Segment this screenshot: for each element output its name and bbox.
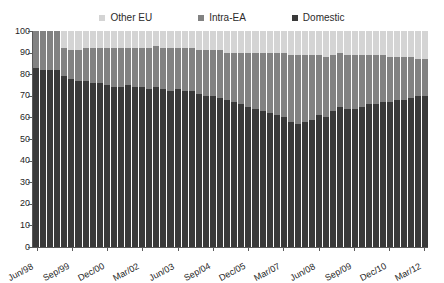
bar-column[interactable]	[111, 31, 118, 247]
y-axis-tick-label: 60	[0, 113, 30, 122]
bar-column[interactable]	[160, 31, 167, 247]
bar-segment-domestic	[359, 107, 365, 247]
bar-column[interactable]	[408, 31, 415, 247]
bar-column[interactable]	[387, 31, 394, 247]
bar-column[interactable]	[125, 31, 132, 247]
bar-segment-intra-ea	[189, 48, 195, 91]
bar-segment-other-eu	[217, 31, 223, 50]
bar-column[interactable]	[68, 31, 75, 247]
bar-segment-intra-ea	[118, 48, 124, 87]
x-axis-tick-label: Mar/07	[253, 261, 282, 283]
bar-column[interactable]	[380, 31, 387, 247]
bar-segment-domestic	[387, 102, 393, 247]
bar-column[interactable]	[316, 31, 323, 247]
bar-column[interactable]	[281, 31, 288, 247]
x-axis-tick-mark	[283, 247, 284, 251]
bar-segment-intra-ea	[83, 48, 89, 80]
bar-segment-intra-ea	[302, 55, 308, 122]
bar-column[interactable]	[33, 31, 40, 247]
bar-column[interactable]	[231, 31, 238, 247]
bar-segment-intra-ea	[295, 55, 301, 124]
bar-column[interactable]	[47, 31, 54, 247]
bar-segment-intra-ea	[352, 55, 358, 109]
bar-column[interactable]	[132, 31, 139, 247]
bar-column[interactable]	[352, 31, 359, 247]
bar-column[interactable]	[323, 31, 330, 247]
bar-segment-domestic	[316, 115, 322, 247]
legend-item-intra-ea[interactable]: Intra-EA	[198, 13, 246, 23]
legend-item-other-eu[interactable]: Other EU	[99, 13, 152, 23]
legend-item-domestic[interactable]: Domestic	[292, 13, 345, 23]
bar-column[interactable]	[224, 31, 231, 247]
bar-column[interactable]	[238, 31, 245, 247]
bar-column[interactable]	[415, 31, 422, 247]
bar-column[interactable]	[366, 31, 373, 247]
bar-column[interactable]	[189, 31, 196, 247]
bar-column[interactable]	[40, 31, 47, 247]
x-axis-tick-label: Mar/02	[112, 261, 141, 283]
bar-column[interactable]	[359, 31, 366, 247]
bar-column[interactable]	[167, 31, 174, 247]
bar-column[interactable]	[146, 31, 153, 247]
bar-segment-domestic	[288, 122, 294, 247]
bar-column[interactable]	[182, 31, 189, 247]
bar-segment-other-eu	[238, 31, 244, 53]
bar-segment-intra-ea	[33, 31, 39, 68]
bar-segment-other-eu	[153, 31, 159, 46]
legend-swatch-other-eu	[99, 15, 105, 21]
bar-column[interactable]	[54, 31, 61, 247]
bar-column[interactable]	[203, 31, 210, 247]
legend-label-domestic: Domestic	[303, 13, 345, 23]
bar-segment-intra-ea	[146, 48, 152, 89]
bar-column[interactable]	[337, 31, 344, 247]
bar-column[interactable]	[153, 31, 160, 247]
bar-column[interactable]	[104, 31, 111, 247]
bar-column[interactable]	[394, 31, 401, 247]
bar-column[interactable]	[288, 31, 295, 247]
bar-column[interactable]	[118, 31, 125, 247]
bar-segment-other-eu	[401, 31, 407, 57]
bar-column[interactable]	[373, 31, 380, 247]
y-axis-tick-label: 20	[0, 199, 30, 208]
bar-column[interactable]	[302, 31, 309, 247]
bar-column[interactable]	[401, 31, 408, 247]
x-axis-tick-mark	[354, 247, 355, 251]
bar-segment-domestic	[267, 113, 273, 247]
bar-segment-intra-ea	[274, 53, 280, 116]
bar-column[interactable]	[217, 31, 224, 247]
bar-segment-domestic	[252, 109, 258, 247]
y-axis-tick-label: 100	[0, 27, 30, 36]
bar-column[interactable]	[309, 31, 316, 247]
bar-segment-intra-ea	[260, 53, 266, 111]
bar-segment-other-eu	[61, 31, 67, 48]
bar-column[interactable]	[139, 31, 146, 247]
bar-column[interactable]	[267, 31, 274, 247]
bar-column[interactable]	[274, 31, 281, 247]
bar-segment-other-eu	[288, 31, 294, 55]
legend-label-intra-ea: Intra-EA	[209, 13, 246, 23]
bar-column[interactable]	[422, 31, 428, 247]
bar-column[interactable]	[196, 31, 203, 247]
bar-column[interactable]	[83, 31, 90, 247]
bar-column[interactable]	[97, 31, 104, 247]
bar-column[interactable]	[90, 31, 97, 247]
bar-column[interactable]	[245, 31, 252, 247]
bar-column[interactable]	[295, 31, 302, 247]
bar-segment-other-eu	[387, 31, 393, 57]
bar-column[interactable]	[344, 31, 351, 247]
bar-segment-intra-ea	[167, 48, 173, 91]
bar-column[interactable]	[75, 31, 82, 247]
bar-segment-domestic	[75, 81, 81, 247]
bar-segment-intra-ea	[153, 46, 159, 87]
bar-column[interactable]	[252, 31, 259, 247]
bar-segment-intra-ea	[401, 57, 407, 100]
bar-segment-other-eu	[97, 31, 103, 48]
bar-column[interactable]	[260, 31, 267, 247]
x-axis-tick-label: Jun/03	[147, 261, 176, 283]
bar-column[interactable]	[330, 31, 337, 247]
bar-column[interactable]	[61, 31, 68, 247]
bar-column[interactable]	[210, 31, 217, 247]
bar-segment-intra-ea	[111, 48, 117, 87]
bar-column[interactable]	[175, 31, 182, 247]
